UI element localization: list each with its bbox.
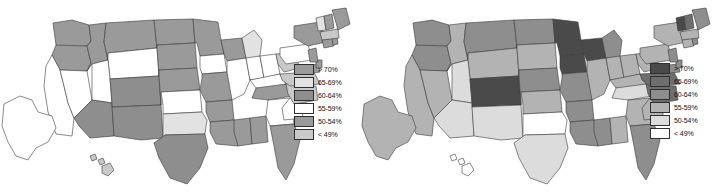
hawaii-island-2 bbox=[98, 158, 105, 165]
state-hi bbox=[102, 163, 114, 176]
hawaii-island-1 bbox=[450, 154, 457, 161]
hawaii-island-1 bbox=[90, 154, 97, 161]
legend-row: 65-69% bbox=[294, 76, 342, 89]
legend-label: 50-54% bbox=[674, 116, 698, 125]
legend-row: 55-59% bbox=[294, 102, 342, 115]
legend-label: 60-64% bbox=[318, 91, 342, 100]
state-nj bbox=[668, 48, 678, 62]
state-nh bbox=[324, 14, 334, 30]
legend-swatch bbox=[650, 76, 670, 87]
legend-swatch bbox=[650, 115, 670, 126]
legend-swatch bbox=[294, 64, 314, 75]
state-ks bbox=[521, 90, 562, 114]
state-tx bbox=[154, 134, 208, 184]
legend-label: 55-59% bbox=[318, 104, 342, 113]
state-mn bbox=[553, 19, 584, 56]
legend-row: > 70% bbox=[650, 62, 698, 75]
state-wa bbox=[413, 20, 451, 48]
state-ia bbox=[560, 54, 587, 74]
state-nm bbox=[472, 105, 523, 140]
state-al bbox=[250, 116, 268, 144]
state-wy bbox=[108, 48, 159, 79]
legend-label: < 49% bbox=[318, 130, 338, 139]
legend-label: < 49% bbox=[674, 129, 694, 138]
state-mn bbox=[193, 19, 224, 56]
legend-swatch bbox=[294, 90, 314, 101]
legend-row: 50-54% bbox=[294, 115, 342, 128]
state-nj bbox=[308, 48, 318, 62]
hawaii-island-2 bbox=[458, 158, 465, 165]
legend-row: 60-64% bbox=[650, 88, 698, 101]
legend-swatch bbox=[650, 63, 670, 74]
legend-label: 65-69% bbox=[674, 77, 698, 86]
state-me bbox=[332, 8, 350, 30]
state-pa bbox=[280, 44, 312, 64]
legend-left: > 70%65-69%60-64%55-59%50-54%< 49% bbox=[294, 63, 342, 141]
legend-swatch bbox=[650, 128, 670, 139]
state-ms bbox=[234, 118, 252, 146]
state-wy bbox=[468, 48, 519, 79]
state-me bbox=[692, 8, 710, 30]
state-ks bbox=[161, 90, 202, 114]
legend-swatch bbox=[294, 116, 314, 127]
state-wa bbox=[53, 20, 91, 48]
legend-row: > 70% bbox=[294, 63, 342, 76]
legend-label: > 70% bbox=[674, 64, 694, 73]
legend-swatch bbox=[650, 102, 670, 113]
state-hi bbox=[462, 163, 474, 176]
legend-row: 65-69% bbox=[650, 75, 698, 88]
state-nh bbox=[684, 14, 694, 30]
legend-label: 60-64% bbox=[674, 90, 698, 99]
state-co bbox=[470, 76, 521, 107]
state-pa bbox=[640, 44, 672, 64]
legend-label: > 70% bbox=[318, 65, 338, 74]
state-al bbox=[610, 116, 628, 144]
legend-swatch bbox=[294, 129, 314, 140]
state-ar bbox=[566, 100, 594, 122]
state-nm bbox=[112, 105, 163, 140]
legend-row: 55-59% bbox=[650, 101, 698, 114]
legend-row: < 49% bbox=[294, 128, 342, 141]
state-ms bbox=[594, 118, 612, 146]
legend-label: 55-59% bbox=[674, 103, 698, 112]
state-ia bbox=[200, 54, 227, 74]
legend-right: > 70%65-69%60-64%55-59%50-54%< 49% bbox=[650, 62, 698, 140]
state-co bbox=[110, 76, 161, 107]
figure-root: > 70%65-69%60-64%55-59%50-54%< 49% > 70%… bbox=[0, 0, 723, 194]
legend-row: 50-54% bbox=[650, 114, 698, 127]
legend-row: 60-64% bbox=[294, 89, 342, 102]
state-ar bbox=[206, 100, 234, 122]
legend-label: 50-54% bbox=[318, 117, 342, 126]
legend-swatch bbox=[294, 103, 314, 114]
legend-label: 65-69% bbox=[318, 78, 342, 87]
legend-swatch bbox=[650, 89, 670, 100]
legend-row: < 49% bbox=[650, 127, 698, 140]
legend-swatch bbox=[294, 77, 314, 88]
state-tx bbox=[514, 134, 568, 184]
